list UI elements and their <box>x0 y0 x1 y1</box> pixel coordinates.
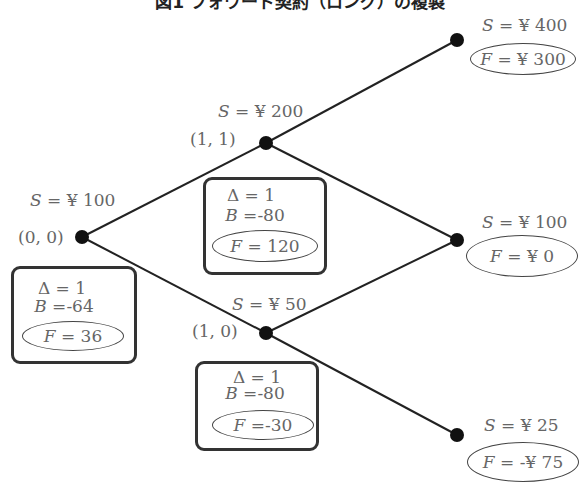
bond-row: B =-80 <box>196 385 314 402</box>
delta-row: Δ = 1 <box>2 280 122 297</box>
node-dd-dot <box>450 428 464 442</box>
node-uu-price: S = ¥ 400 <box>482 17 567 34</box>
node-down-coord: (1, 0) <box>192 323 238 340</box>
node-root-coord: (0, 0) <box>18 229 64 246</box>
node-ud-dot <box>450 233 464 247</box>
node-dd-price: S = ¥ 25 <box>484 417 559 434</box>
node-dd-value-oval: F = -¥ 75 <box>467 442 579 482</box>
edge-up-uu <box>266 40 457 143</box>
node-up-price: S = ¥ 200 <box>218 103 303 120</box>
node-root-dot <box>75 230 89 244</box>
node-uu-dot <box>450 33 464 47</box>
node-uu-value-oval: F = ¥ 300 <box>470 43 576 75</box>
node-up-portfolio-box: Δ = 1 B =-80 F = 120 <box>203 177 327 275</box>
node-down-value-oval: F =-30 <box>212 410 314 440</box>
node-up-dot <box>259 136 273 150</box>
node-root-price: S = ¥ 100 <box>30 192 115 209</box>
bond-row: B =-64 <box>4 298 124 315</box>
node-root-portfolio-box: Δ = 1 B =-64 F = 36 <box>11 266 137 364</box>
node-down-dot <box>259 326 273 340</box>
node-up-coord: (1, 1) <box>190 131 236 148</box>
node-ud-price: S = ¥ 100 <box>482 214 567 231</box>
node-down-portfolio-box: Δ = 1 B =-80 F =-30 <box>195 361 319 451</box>
node-down-price: S = ¥ 50 <box>232 296 307 313</box>
bond-row: B =-80 <box>196 207 314 224</box>
delta-row: Δ = 1 <box>192 187 310 204</box>
node-up-value-oval: F = 120 <box>212 230 318 262</box>
node-root-value-oval: F = 36 <box>22 321 124 351</box>
node-ud-value-oval: F = ¥ 0 <box>466 235 578 277</box>
